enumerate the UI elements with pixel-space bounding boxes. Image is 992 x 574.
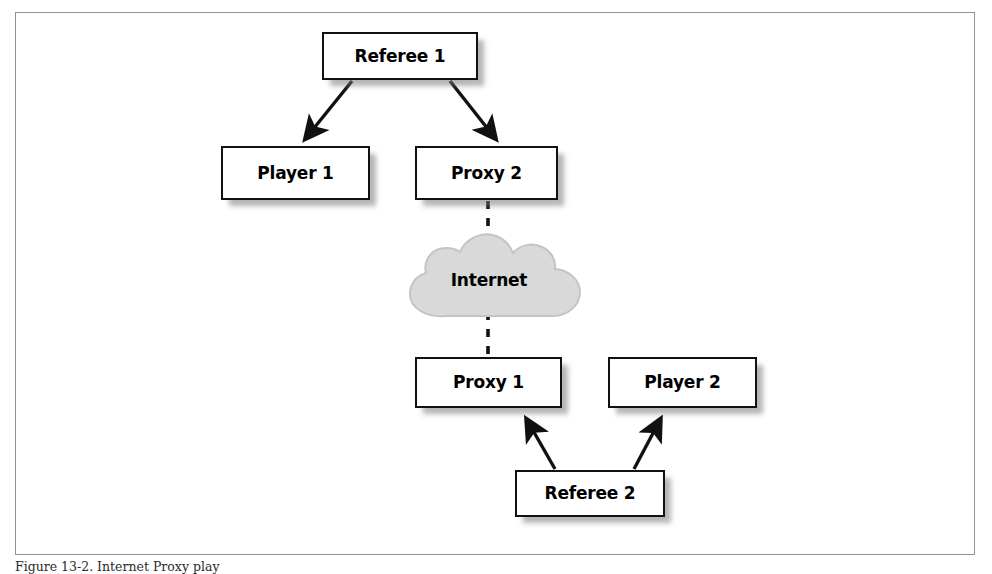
node-referee-2[interactable]: Referee 2 <box>515 470 665 517</box>
node-referee-1-label: Referee 1 <box>355 48 446 65</box>
edge-referee1-to-proxy2 <box>450 81 495 138</box>
node-player-2-label: Player 2 <box>644 374 720 391</box>
node-player-1[interactable]: Player 1 <box>221 146 370 200</box>
figure-frame: Internet Referee 1 Player 1 Proxy 2 Prox… <box>15 12 975 555</box>
node-referee-2-label: Referee 2 <box>545 485 636 502</box>
node-referee-1[interactable]: Referee 1 <box>322 32 478 80</box>
internet-cloud-label-wrap: Internet <box>388 228 598 332</box>
node-proxy-1[interactable]: Proxy 1 <box>415 357 562 408</box>
edge-referee2-to-proxy1 <box>527 420 555 469</box>
node-proxy-2[interactable]: Proxy 2 <box>415 146 558 200</box>
edge-referee2-to-player2 <box>634 420 660 469</box>
node-proxy-2-label: Proxy 2 <box>451 165 522 182</box>
internet-cloud: Internet <box>388 228 598 332</box>
node-player-1-label: Player 1 <box>257 165 333 182</box>
edge-referee1-to-player1 <box>306 81 352 138</box>
internet-cloud-label: Internet <box>451 270 528 290</box>
node-player-2[interactable]: Player 2 <box>608 357 757 408</box>
figure-caption: Figure 13-2. Internet Proxy play <box>15 559 715 574</box>
node-proxy-1-label: Proxy 1 <box>453 374 524 391</box>
